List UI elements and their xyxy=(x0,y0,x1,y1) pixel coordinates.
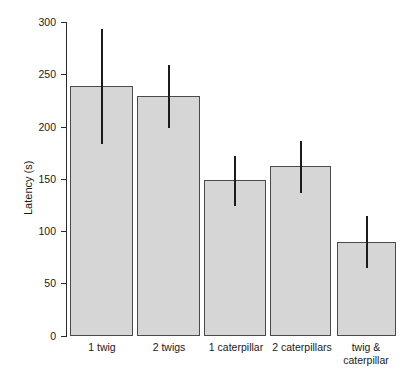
x-tick-label-2-caterpillars: 2 caterpillars xyxy=(266,341,338,354)
bar-2-twigs xyxy=(137,96,200,336)
y-tick-label-100: 100 xyxy=(26,226,56,236)
bar-chart: Latency (s) 0 50 100 150 200 250 300 1 t… xyxy=(0,0,404,378)
y-tick-mark-150 xyxy=(61,179,66,180)
y-tick-mark-50 xyxy=(61,283,66,284)
y-tick-label-50: 50 xyxy=(26,278,56,288)
y-tick-mark-300 xyxy=(61,22,66,23)
x-tick-label-twig-caterpillar: twig & caterpillar xyxy=(333,341,399,366)
y-tick-label-0: 0 xyxy=(26,331,56,341)
x-tick-label-2-twigs: 2 twigs xyxy=(137,341,201,354)
y-tick-mark-200 xyxy=(61,127,66,128)
errorbar-twig-caterpillar xyxy=(366,216,368,268)
y-tick-mark-100 xyxy=(61,231,66,232)
y-tick-label-250: 250 xyxy=(26,69,56,79)
errorbar-1-caterpillar xyxy=(234,156,236,206)
plot-area: Latency (s) 0 50 100 150 200 250 300 1 t… xyxy=(0,0,404,378)
y-tick-mark-250 xyxy=(61,74,66,75)
y-tick-label-200: 200 xyxy=(26,122,56,132)
y-tick-label-300: 300 xyxy=(26,17,56,27)
y-axis-title: Latency (s) xyxy=(22,161,34,215)
y-tick-label-150: 150 xyxy=(26,174,56,184)
y-axis-line xyxy=(66,22,67,337)
x-tick-label-1-caterpillar: 1 caterpillar xyxy=(201,341,271,354)
x-tick-label-1-twig: 1 twig xyxy=(70,341,134,354)
errorbar-2-twigs xyxy=(168,65,170,128)
y-tick-mark-0 xyxy=(61,336,66,337)
errorbar-1-twig xyxy=(101,29,103,144)
errorbar-2-caterpillars xyxy=(300,141,302,192)
